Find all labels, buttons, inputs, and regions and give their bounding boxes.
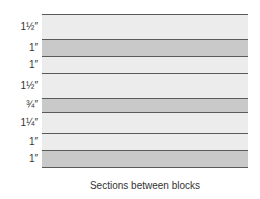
section-label: 1″ [29,154,38,164]
section-strip [42,150,248,168]
diagram-caption: Sections between blocks [0,180,260,191]
section-label: 1″ [29,43,38,53]
section-strip [42,112,248,133]
block-sections-diagram: 1½″1″1″1½″¾″1¼″1″1″ Sections between blo… [0,0,260,199]
section-label: 1″ [29,137,38,147]
section-label: 1½″ [21,81,38,91]
section-strip [42,98,248,112]
section-strip [42,56,248,73]
section-label: 1″ [29,60,38,70]
section-strip [42,39,248,56]
section-strip [42,73,248,98]
section-strip [42,133,248,150]
section-label: 1½″ [21,22,38,32]
section-label: 1¼″ [21,118,38,128]
section-label: ¾″ [26,100,38,110]
section-strip [42,14,248,39]
